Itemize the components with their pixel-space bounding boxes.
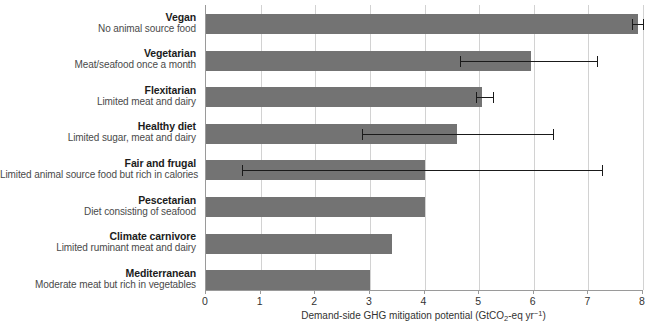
x-axis-tick-label: 7 — [584, 295, 590, 307]
x-axis-title: Demand-side GHG mitigation potential (Gt… — [205, 309, 642, 323]
category-name: Flexitarian — [0, 85, 196, 96]
category-description: Limited sugar, meat and dairy — [0, 133, 196, 143]
x-axis-tick-label: 6 — [530, 295, 536, 307]
x-axis-tick — [314, 290, 315, 294]
diet-mitigation-bar-chart: Vegan No animal source food Vegetarian M… — [0, 0, 654, 323]
x-axis-tick-label: 2 — [311, 295, 317, 307]
category-name: Healthy diet — [0, 121, 196, 132]
error-bar-line — [632, 24, 643, 25]
x-axis-tick-label: 8 — [639, 295, 645, 307]
category-label-vegetarian: Vegetarian Meat/seafood once a month — [0, 48, 196, 70]
x-axis-tick-label: 4 — [421, 295, 427, 307]
gridline — [479, 5, 480, 290]
gridline — [588, 5, 589, 290]
x-axis-tick — [369, 290, 370, 294]
x-axis-tick — [260, 290, 261, 294]
x-axis-tick — [587, 290, 588, 294]
error-bar-line — [476, 97, 492, 98]
category-description: No animal source food — [0, 24, 196, 34]
x-axis-title-before: Demand-side GHG mitigation potential (Gt… — [301, 310, 504, 321]
category-name: Fair and frugal — [0, 158, 196, 169]
x-axis-title-middle: -eq yr — [508, 310, 534, 321]
category-name: Vegetarian — [0, 48, 196, 59]
category-label-mediterranean: Mediterranean Moderate meat but rich in … — [0, 268, 196, 290]
plot-area — [205, 5, 643, 290]
error-bar-cap-high — [602, 165, 603, 176]
bar — [206, 234, 392, 254]
error-bar-cap-high — [553, 129, 554, 140]
x-axis-tick — [478, 290, 479, 294]
category-label-flexitarian: Flexitarian Limited meat and dairy — [0, 85, 196, 107]
x-axis-title-after: ) — [542, 310, 545, 321]
error-bar-cap-low — [632, 19, 633, 30]
gridline — [534, 5, 535, 290]
error-bar-cap-high — [493, 92, 494, 103]
error-bar-cap-low — [242, 165, 243, 176]
error-bar-cap-high — [597, 56, 598, 67]
category-description: Moderate meat but rich in vegetables — [0, 280, 196, 290]
error-bar-cap-low — [476, 92, 477, 103]
category-description: Diet consisting of seafood — [0, 207, 196, 217]
category-label-pescetarian: Pescetarian Diet consisting of seafood — [0, 195, 196, 217]
error-bar-cap-low — [362, 129, 363, 140]
category-label-fair-and-frugal: Fair and frugal Limited animal source fo… — [0, 158, 196, 180]
category-description: Limited ruminant meat and dairy — [0, 243, 196, 253]
category-label-climate-carnivore: Climate carnivore Limited ruminant meat … — [0, 231, 196, 253]
category-name: Climate carnivore — [0, 231, 196, 242]
x-axis-tick — [533, 290, 534, 294]
category-label-vegan: Vegan No animal source food — [0, 12, 196, 34]
x-axis-tick-label: 5 — [475, 295, 481, 307]
x-axis-tick — [642, 290, 643, 294]
bar — [206, 197, 425, 217]
category-description: Meat/seafood once a month — [0, 60, 196, 70]
error-bar-cap-low — [460, 56, 461, 67]
category-description: Limited animal source food but rich in c… — [0, 170, 196, 180]
error-bar-line — [460, 61, 597, 62]
x-axis-tick — [205, 290, 206, 294]
error-bar-line — [242, 170, 603, 171]
error-bar-line — [362, 134, 553, 135]
error-bar-cap-high — [643, 19, 644, 30]
x-axis-tick — [424, 290, 425, 294]
category-label-column: Vegan No animal source food Vegetarian M… — [0, 0, 200, 290]
bar — [206, 270, 370, 290]
bar — [206, 87, 482, 107]
bar — [206, 14, 638, 34]
x-axis-tick-label: 1 — [257, 295, 263, 307]
gridline — [643, 5, 644, 290]
category-name: Pescetarian — [0, 195, 196, 206]
x-axis-tick-label: 3 — [366, 295, 372, 307]
category-name: Vegan — [0, 12, 196, 23]
x-axis-tick-label: 0 — [202, 295, 208, 307]
category-name: Mediterranean — [0, 268, 196, 279]
category-description: Limited meat and dairy — [0, 97, 196, 107]
gridline — [425, 5, 426, 290]
category-label-healthy-diet: Healthy diet Limited sugar, meat and dai… — [0, 121, 196, 143]
